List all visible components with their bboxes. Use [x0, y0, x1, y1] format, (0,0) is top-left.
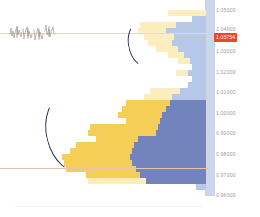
- bar-row: [196, 184, 206, 190]
- low-reference-line: [0, 168, 208, 169]
- price-histogram-chart: 1.05000 1.04000 1.03754 1.03000 1.02000 …: [0, 0, 260, 217]
- price-sketch-icon: [8, 22, 60, 44]
- axis-tick-label: 0.97000: [216, 172, 236, 178]
- axis-tick-label: 1.01000: [216, 89, 236, 95]
- axis-tick-label: 0.99000: [216, 130, 236, 136]
- axis-tick-label: 0.98000: [216, 151, 236, 157]
- bar-row: [178, 58, 190, 64]
- price-axis-strip: [205, 0, 215, 196]
- axis-tick-label: 0.96000: [216, 192, 236, 198]
- baseline-dotted-line: [14, 206, 201, 208]
- bar-row: [176, 70, 188, 76]
- axis-tick-label: 1.04000: [216, 26, 236, 32]
- axis-tick-label: 1.05000: [216, 7, 236, 13]
- axis-tick-label: 1.03000: [216, 48, 236, 54]
- current-price-badge[interactable]: 1.03754: [214, 33, 237, 42]
- axis-tick-label: 1.00000: [216, 110, 236, 116]
- axis-tick-label: 1.02000: [216, 69, 236, 75]
- plot-area[interactable]: [0, 0, 215, 217]
- price-axis-labels: 1.05000 1.04000 1.03754 1.03000 1.02000 …: [216, 0, 260, 217]
